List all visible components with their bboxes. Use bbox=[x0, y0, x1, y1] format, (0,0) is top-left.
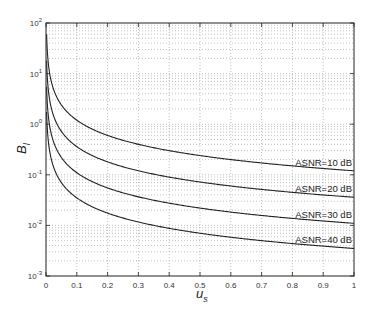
x-tick-label: 0.2 bbox=[102, 281, 114, 290]
y-tick-label: 10-3 bbox=[28, 270, 43, 281]
curve-1 bbox=[47, 34, 354, 171]
x-tick-label: 0.7 bbox=[256, 281, 268, 290]
x-tick-label: 0.8 bbox=[287, 281, 299, 290]
x-tick-label: 1 bbox=[352, 281, 357, 290]
curve-label: ASNR=10 dB bbox=[295, 157, 352, 168]
x-tick-label: 0.6 bbox=[225, 281, 237, 290]
y-tick-label: 100 bbox=[30, 118, 43, 129]
curve-label: ASNR=20 dB bbox=[295, 183, 352, 194]
x-tick-label: 0.1 bbox=[71, 281, 83, 290]
y-tick-label: 10-1 bbox=[28, 169, 43, 180]
x-tick-label: 0 bbox=[44, 281, 49, 290]
curve-label: ASNR=40 dB bbox=[295, 234, 352, 245]
x-tick-label: 0.9 bbox=[318, 281, 330, 290]
y-tick-label: 102 bbox=[30, 17, 43, 28]
curve-3 bbox=[47, 87, 354, 224]
x-tick-label: 0.3 bbox=[133, 281, 145, 290]
y-tick-label: 10-2 bbox=[28, 219, 43, 230]
curve-label: ASNR=30 dB bbox=[295, 209, 352, 220]
y-tick-label: 101 bbox=[30, 68, 43, 79]
chart: 00.10.20.30.40.50.60.70.80.91 1021011001… bbox=[0, 0, 374, 317]
x-tick-label: 0.4 bbox=[164, 281, 176, 290]
y-axis-label: Bl bbox=[14, 142, 32, 154]
x-axis-label: us bbox=[196, 286, 208, 304]
